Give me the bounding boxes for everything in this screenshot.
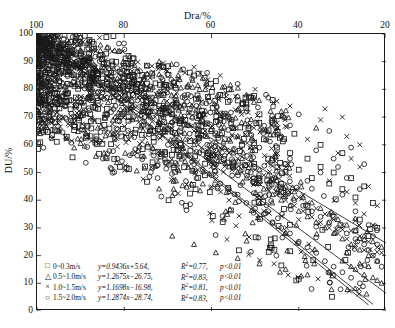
data-point-circle [296,112,301,117]
y-tick-70: 70 [24,111,34,121]
y-tick-0: 0 [28,305,33,315]
data-point-cluster [120,126,125,131]
data-point-cross [261,173,266,178]
data-point-cluster [150,160,155,165]
x-tick-20: 20 [380,20,390,30]
legend-r-squared: R2=0.83, [181,294,220,303]
y-tick-50: 50 [24,167,34,177]
data-point-outlier [277,269,282,274]
legend: □0~0.3m/sy=0.9436x+5.64,R2=0.77,p<0.01△0… [42,261,241,303]
data-point-outlier [200,181,205,186]
data-point-cluster [221,119,226,124]
data-point-outlier [145,141,150,146]
data-point-square [353,195,358,200]
data-point-cluster [230,173,235,178]
data-point-cross [349,156,354,161]
data-point-outlier [176,191,181,196]
data-point-circle [179,126,184,131]
data-point-circle [152,109,157,114]
data-point-cross [305,137,310,142]
data-point-cluster [188,191,193,196]
data-point-cluster [37,147,40,152]
data-point-cross [327,226,332,231]
data-point-cluster [120,159,125,164]
data-point-outlier [199,99,204,104]
data-point-cluster [170,152,175,157]
data-point-triangle [314,125,319,130]
data-point-triangle [192,242,197,247]
legend-r-squared: R2=0.81, [181,283,220,292]
data-point-cluster [282,207,287,212]
data-point-triangle [279,109,284,114]
data-point-outlier [104,35,109,40]
data-point-cross [357,142,362,147]
data-point-outlier [237,248,242,253]
legend-equation: y=1.2675x−26.75, [98,273,181,280]
data-point-cluster [66,121,71,126]
data-point-cluster [186,92,191,97]
data-point-cross [309,214,314,219]
legend-series-label: 0.5~1.0m/s [53,273,98,280]
data-point-triangle [213,250,218,255]
data-point-triangle [370,275,375,280]
legend-marker-icon: × [42,283,53,291]
data-point-outlier [225,237,230,242]
data-point-square [318,142,323,147]
data-point-outlier [375,250,380,255]
data-point-circle [349,275,354,280]
data-point-outlier [286,273,291,278]
data-point-square [213,79,218,84]
data-point-circle [379,264,384,269]
data-point-outlier [115,144,120,149]
data-point-cross [318,117,323,122]
data-point-cluster [250,220,255,225]
legend-marker-icon: □ [42,262,53,270]
data-point-outlier [236,173,241,178]
data-point-outlier [57,115,62,120]
data-point-circle [353,209,358,214]
data-point-circle [314,148,319,153]
data-point-outlier [316,276,321,281]
data-point-cross [288,104,293,109]
data-point-cross [344,134,349,139]
data-point-cross [218,73,223,78]
data-point-cross [362,212,367,217]
y-tick-20: 20 [24,250,34,260]
data-point-cluster [108,166,113,171]
data-point-circle [340,192,345,197]
data-point-cluster [86,46,91,51]
data-point-outlier [304,263,309,268]
data-point-outlier [123,151,128,156]
data-point-cluster [257,201,262,206]
data-point-cluster [256,105,261,110]
data-point-triangle [235,256,240,261]
y-tick-90: 90 [24,56,34,66]
data-point-cluster [153,81,158,86]
data-point-outlier [365,258,370,263]
data-point-square [340,151,345,156]
data-point-circle [340,270,345,275]
legend-row-1: △0.5~1.0m/sy=1.2675x−26.75,R2=0.83,p<0.0… [42,272,241,283]
legend-row-3: ○1.5~2.0m/sy=1.2874x−28.74,R2=0.83,p<0.0… [42,293,241,304]
legend-row-2: ×1.0~1.5m/sy=1.1698x−16.98,R2=0.81,p<0.0… [42,282,241,293]
data-point-cluster [70,155,75,160]
legend-p-value: p<0.01 [220,294,241,301]
y-tick-30: 30 [24,222,34,232]
data-points-layer [37,34,384,299]
data-point-outlier [159,194,164,199]
data-point-cluster [97,35,102,40]
data-point-circle [222,153,227,158]
data-point-cross [379,250,384,255]
legend-series-label: 0~0.3m/s [53,263,98,270]
data-point-square [318,165,323,170]
data-point-triangle [375,278,380,283]
data-point-cluster [269,146,274,151]
data-point-cluster [185,99,190,104]
data-point-cluster [75,136,80,141]
data-point-circle [336,165,341,170]
legend-marker-icon: △ [42,273,53,281]
data-point-triangle [357,261,362,266]
data-point-circle [174,62,179,67]
data-point-cluster [283,108,288,113]
x-tick-60: 60 [206,20,216,30]
